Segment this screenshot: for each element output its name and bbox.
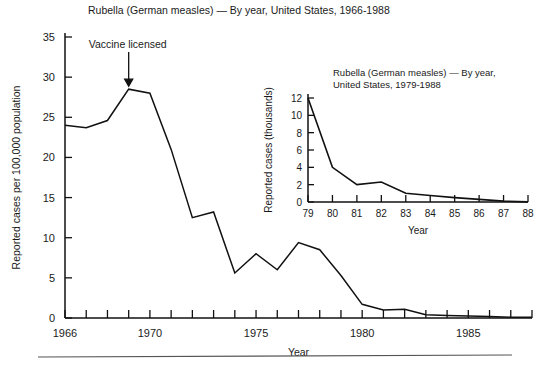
chart-canvas: Rubella (German measles) — By year, Unit… (0, 0, 547, 369)
inset-x-tick-label: 86 (474, 208, 486, 219)
main-y-axis-label: Reported cases per 100,000 population (10, 85, 22, 269)
inset-y-tick-label: 2 (296, 180, 302, 191)
main-x-tick-label: 1970 (138, 327, 162, 339)
inset-x-tick-label: 79 (302, 208, 314, 219)
inset-y-tick-label: 4 (296, 162, 302, 173)
inset-chart-title-line2: United States, 1979-1988 (333, 79, 441, 90)
inset-x-axis-label: Year (408, 225, 429, 236)
inset-x-tick-label: 82 (376, 208, 388, 219)
inset-y-axis-label: Reported cases (thousands) (263, 87, 274, 213)
inset-y-tick-label: 0 (296, 197, 302, 208)
main-y-tick-label: 25 (43, 111, 55, 123)
main-y-tick-label: 20 (43, 151, 55, 163)
bottom-divider-rule (38, 355, 512, 357)
inset-x-tick-label: 88 (522, 208, 534, 219)
main-y-tick-label: 30 (43, 71, 55, 83)
inset-chart-title-line1: Rubella (German measles) — By year, (333, 67, 496, 78)
main-y-tick-label: 15 (43, 192, 55, 204)
vaccine-licensed-annotation-label: Vaccine licensed (89, 38, 167, 50)
main-chart-title: Rubella (German measles) — By year, Unit… (88, 4, 390, 16)
main-y-tick-label: 0 (49, 312, 55, 324)
annotation-arrow-head (125, 79, 133, 86)
main-x-tick-label: 1966 (53, 327, 77, 339)
inset-y-tick-label: 8 (296, 128, 302, 139)
inset-x-tick-label: 85 (449, 208, 461, 219)
main-x-tick-label: 1975 (244, 327, 268, 339)
main-x-tick-label: 1985 (456, 327, 480, 339)
inset-y-tick-label: 12 (291, 93, 303, 104)
inset-y-tick-label: 10 (291, 110, 303, 121)
main-y-tick-label: 35 (43, 31, 55, 43)
inset-y-tick-label: 6 (296, 145, 302, 156)
main-y-tick-label: 5 (49, 272, 55, 284)
inset-x-tick-label: 80 (327, 208, 339, 219)
main-x-tick-label: 1980 (350, 327, 374, 339)
rubella-incidence-figure: Rubella (German measles) — By year, Unit… (0, 0, 547, 369)
main-y-tick-label: 10 (43, 232, 55, 244)
inset-x-tick-label: 84 (425, 208, 437, 219)
inset-x-tick-label: 83 (400, 208, 412, 219)
inset-x-tick-label: 81 (351, 208, 363, 219)
inset-x-tick-label: 87 (498, 208, 510, 219)
